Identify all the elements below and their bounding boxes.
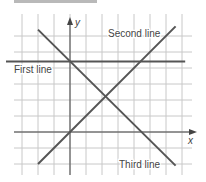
- coordinate-diagram: x y First line Second line Third line: [0, 0, 206, 182]
- first-line-label: First line: [14, 64, 52, 75]
- second-line: [38, 26, 176, 164]
- lines: [6, 26, 185, 165]
- second-line-label: Second line: [108, 28, 161, 39]
- line-labels: First line Second line Third line: [14, 28, 161, 170]
- third-line: [38, 30, 176, 166]
- y-axis-label: y: [74, 17, 81, 28]
- third-line-label: Third line: [119, 159, 161, 170]
- y-axis-arrow-icon: [67, 17, 73, 25]
- x-axis-label: x: [187, 135, 194, 146]
